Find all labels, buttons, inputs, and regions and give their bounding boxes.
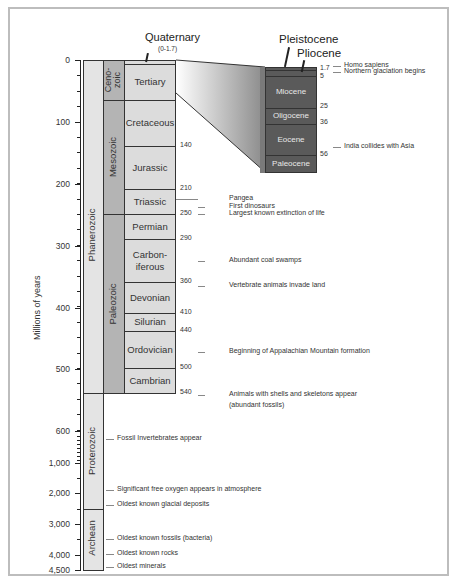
epoch-label: Eocene bbox=[265, 135, 317, 144]
epoch-boundary-label: 5 bbox=[320, 72, 324, 79]
epoch-label: Miocene bbox=[265, 87, 317, 96]
epoch-event-label: India collides with Asia bbox=[344, 142, 414, 149]
epoch-event-label: Northern glaciation begins bbox=[344, 67, 425, 74]
pleistocene-title: Pleistocene bbox=[279, 33, 338, 45]
epoch-event-leader bbox=[333, 147, 341, 148]
epoch-event-leader bbox=[333, 72, 341, 73]
epoch-event-leader bbox=[333, 66, 341, 67]
epoch-boundary-label: 36 bbox=[320, 118, 328, 125]
epoch-label: Paleocene bbox=[265, 159, 317, 168]
epoch-column-shadow bbox=[260, 67, 265, 173]
epoch-boundary-label: 56 bbox=[320, 150, 328, 157]
zoom-connector bbox=[0, 0, 458, 586]
pliocene-title: Pliocene bbox=[297, 47, 341, 59]
epoch-boundary-label: 25 bbox=[320, 102, 328, 109]
epoch-boundary-label: 1.7 bbox=[320, 64, 330, 71]
epoch-label: Oligocene bbox=[265, 111, 317, 120]
